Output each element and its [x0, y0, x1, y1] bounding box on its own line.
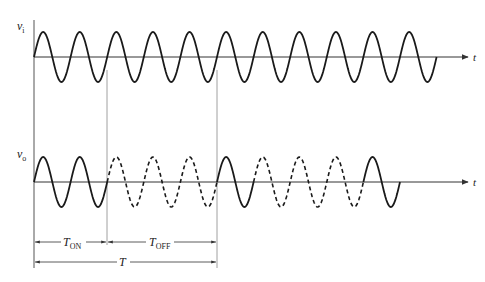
output-signal-label: vo — [17, 147, 26, 163]
period-label: T — [119, 255, 127, 269]
input-signal-plot: vi t — [17, 19, 477, 82]
input-axis-label: t — [473, 51, 477, 63]
input-signal-label: vi — [17, 19, 25, 35]
timing-diagram: vi t vo t TON TOFF T — [0, 0, 485, 282]
ton-label: TON — [63, 235, 81, 251]
output-signal-plot: vo t — [17, 147, 477, 207]
toff-dimension: TOFF — [108, 235, 216, 251]
toff-label: TOFF — [149, 235, 171, 251]
period-dimension: T — [35, 255, 216, 269]
ton-dimension: TON — [35, 235, 106, 251]
output-axis-label: t — [473, 176, 477, 188]
